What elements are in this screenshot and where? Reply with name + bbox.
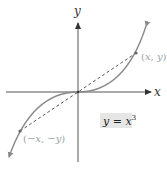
point-neg-x-neg-y-marker: [18, 129, 21, 132]
point-x-y-marker: [134, 51, 137, 54]
equation-label: y = x3: [102, 114, 136, 128]
x-axis-label: x: [154, 85, 161, 99]
cubic-function-figure: y = x3 x y (x, y) (−x, −y): [0, 0, 167, 169]
point-neg-x-neg-y-label: (−x, −y): [23, 133, 65, 144]
origin-marker: [77, 91, 79, 93]
equation-box: y = x3: [100, 113, 136, 128]
point-x-y-label: (x, y): [141, 51, 167, 62]
y-axis-label: y: [73, 4, 81, 18]
